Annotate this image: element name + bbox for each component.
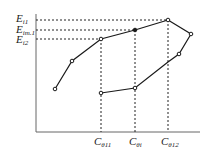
guide-lines bbox=[36, 20, 168, 132]
x-label-cthetai: Cθi bbox=[129, 136, 142, 149]
data-points bbox=[53, 18, 193, 95]
upper-curve bbox=[55, 20, 168, 89]
lower-curve bbox=[101, 20, 191, 93]
y-label-ei2: Ei2 bbox=[16, 34, 28, 47]
x-label-ctheta12: Cθ12 bbox=[161, 136, 179, 149]
x-label-ctheta11: Cθ11 bbox=[94, 136, 111, 149]
